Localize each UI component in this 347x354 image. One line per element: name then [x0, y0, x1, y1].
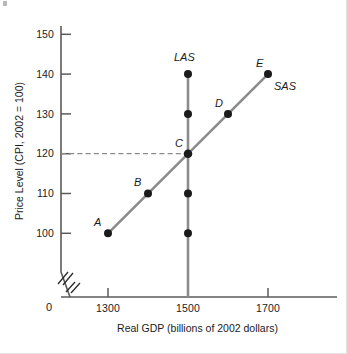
y-tick-label-100: 100 [26, 227, 54, 239]
x-tick-label-1500: 1500 [163, 302, 213, 314]
data-point-d [224, 110, 232, 118]
x-axis-title: Real GDP (billions of 2002 dollars) [60, 322, 335, 334]
data-point-e [264, 70, 272, 78]
point-label-d: D [215, 97, 223, 109]
point-label-e: E [256, 57, 263, 69]
data-point-b [144, 190, 152, 198]
y-tick-label-130: 130 [26, 108, 54, 120]
point-label-c: C [175, 137, 183, 149]
y-tick-label-140: 140 [26, 68, 54, 80]
figure-frame: 150 140 130 120 110 100 1300 1500 1700 0… [0, 0, 347, 354]
data-point-c [184, 149, 193, 158]
x-tick-label-1700: 1700 [243, 302, 293, 314]
y-axis-title: Price Level (CPI, 2002 = 100) [13, 56, 25, 246]
y-tick-label-150: 150 [26, 28, 54, 40]
curve-label-sas: SAS [274, 80, 296, 92]
data-point-las-140 [184, 70, 192, 78]
data-point-a [104, 229, 112, 237]
y-tick-label-110: 110 [26, 187, 54, 199]
point-label-a: A [94, 216, 101, 228]
curve-label-las: LAS [174, 51, 195, 63]
y-tick-marks [61, 34, 71, 233]
data-point-las-100 [184, 229, 192, 237]
data-point-las-130 [184, 110, 192, 118]
data-point-las-110 [184, 190, 192, 198]
x-tick-label-1300: 1300 [83, 302, 133, 314]
y-tick-label-120: 120 [26, 147, 54, 159]
origin-label: 0 [46, 301, 52, 313]
point-label-b: B [134, 176, 141, 188]
